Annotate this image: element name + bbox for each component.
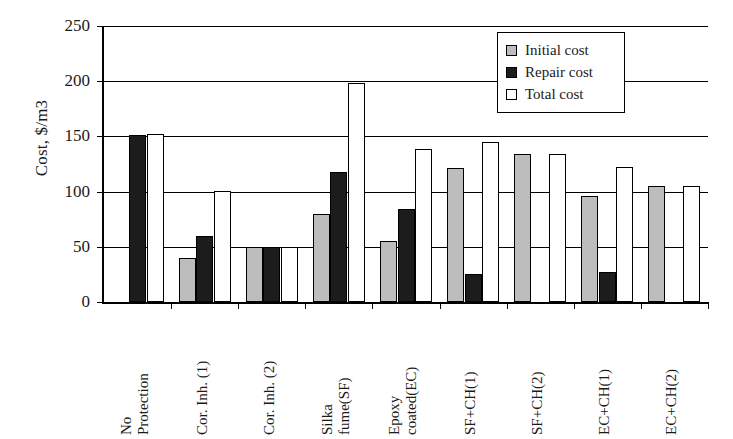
- bar-initial: [179, 258, 196, 302]
- legend-label: Initial cost: [525, 43, 589, 58]
- bar-initial: [380, 241, 397, 302]
- x-tickmark: [440, 302, 441, 309]
- bar-total: [214, 191, 231, 303]
- y-tickmark: [97, 26, 104, 27]
- x-tickmark: [574, 302, 575, 309]
- x-tickmark: [171, 302, 172, 309]
- y-tick-label: 200: [44, 72, 90, 89]
- bar-total: [348, 83, 365, 302]
- bar-total: [482, 142, 499, 302]
- x-category-label-line: coated(EC): [403, 367, 420, 435]
- bar-total: [415, 149, 432, 302]
- legend-swatch-initial-icon: [506, 45, 517, 56]
- y-tickmark: [97, 81, 104, 82]
- bar-initial: [246, 247, 263, 302]
- x-category-label: Epoxycoated(EC): [386, 311, 422, 435]
- bar-repair: [196, 236, 213, 302]
- x-category-label: NoProtection: [118, 311, 154, 435]
- bar-repair: [129, 135, 146, 302]
- x-category-label: EC+CH(1): [596, 311, 632, 435]
- legend-item-initial[interactable]: Initial cost: [506, 39, 616, 61]
- y-tick-label: 50: [44, 238, 90, 255]
- chart-legend: Initial costRepair costTotal cost: [497, 32, 625, 113]
- bar-repair: [263, 247, 280, 302]
- x-tickmark: [641, 302, 642, 309]
- legend-label: Repair cost: [525, 65, 593, 80]
- x-category-label-line: EC+CH(1): [596, 369, 613, 435]
- y-tick-label: 150: [44, 127, 90, 144]
- bar-total: [281, 247, 298, 302]
- bar-total: [616, 167, 633, 302]
- x-category-label-line: Silka: [319, 378, 336, 436]
- bar-chart-figure: Cost, $/m3 050100150200250 NoProtectionC…: [0, 0, 733, 439]
- x-category-label-line: No: [118, 373, 135, 435]
- bar-total: [549, 154, 566, 302]
- legend-swatch-repair-icon: [506, 67, 517, 78]
- gridline: [104, 26, 708, 27]
- x-category-label: SF+CH(1): [462, 311, 498, 435]
- y-tickmark: [97, 192, 104, 193]
- y-tickmark: [97, 247, 104, 248]
- legend-label: Total cost: [525, 87, 584, 102]
- y-tick-label: 250: [44, 17, 90, 34]
- x-tickmark: [305, 302, 306, 309]
- gridline: [104, 136, 708, 137]
- bar-initial: [514, 154, 531, 302]
- x-tickmark: [708, 302, 709, 309]
- bar-initial: [581, 196, 598, 302]
- x-category-label: Silkafume(SF): [319, 311, 355, 435]
- x-category-label: EC+CH(2): [663, 311, 699, 435]
- bar-total: [683, 186, 700, 302]
- x-category-label-line: SF+CH(2): [529, 372, 546, 435]
- x-category-label: Cor. Inh. (2): [261, 311, 297, 435]
- bar-repair: [330, 172, 347, 302]
- x-category-label-line: Cor. Inh. (1): [194, 361, 211, 435]
- bar-repair: [465, 274, 482, 302]
- x-category-label-line: fume(SF): [336, 378, 353, 436]
- x-category-label: Cor. Inh. (1): [194, 311, 230, 435]
- y-tick-label: 100: [44, 183, 90, 200]
- legend-swatch-total-icon: [506, 89, 517, 100]
- x-category-label: SF+CH(2): [529, 311, 565, 435]
- y-tickmark: [97, 302, 104, 303]
- legend-item-total[interactable]: Total cost: [506, 83, 616, 105]
- y-tickmark: [97, 136, 104, 137]
- x-tickmark: [372, 302, 373, 309]
- bar-repair: [398, 209, 415, 302]
- bar-initial: [447, 168, 464, 302]
- bar-repair: [599, 272, 616, 302]
- x-category-label-line: Epoxy: [386, 367, 403, 435]
- bar-initial: [648, 186, 665, 302]
- y-tick-label: 0: [44, 293, 90, 310]
- x-category-label-line: SF+CH(1): [462, 372, 479, 435]
- bar-total: [147, 134, 164, 302]
- x-category-label-line: Cor. Inh. (2): [261, 361, 278, 435]
- bar-initial: [313, 214, 330, 302]
- x-category-label-line: Protection: [135, 373, 152, 435]
- legend-item-repair[interactable]: Repair cost: [506, 61, 616, 83]
- x-tickmark: [238, 302, 239, 309]
- x-category-label-line: EC+CH(2): [663, 369, 680, 435]
- x-tickmark: [507, 302, 508, 309]
